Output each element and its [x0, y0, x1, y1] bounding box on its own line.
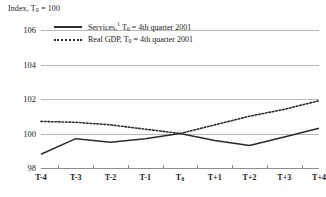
x-tick-label: T+3	[277, 173, 291, 182]
x-tick-label: T-3	[70, 173, 81, 182]
series-line	[41, 128, 319, 154]
x-tick-mark	[302, 165, 303, 169]
y-axis-title: Index, T0 = 100	[8, 4, 60, 13]
y-axis-labels: 98100102104106	[0, 30, 36, 168]
y-axis-title-subscript: 0	[36, 7, 39, 13]
legend-label: Real GDP, T0 = 4th quarter 2001	[88, 35, 193, 44]
x-tick-mark	[232, 165, 233, 169]
x-tick-label: T-4	[35, 173, 46, 182]
x-tick-mark	[128, 165, 129, 169]
legend-item: Services,1 T0 = 4th quarter 2001	[54, 20, 269, 33]
x-tick-label: T0	[176, 173, 184, 182]
x-tick-mark	[267, 165, 268, 169]
y-tick-label: 98	[28, 163, 37, 173]
y-axis-title-main: Index, T	[8, 4, 36, 13]
legend-label: Services,1 T0 = 4th quarter 2001	[88, 21, 191, 32]
series-layer	[41, 30, 319, 168]
plot-area	[41, 30, 319, 168]
x-tick-mark	[93, 165, 94, 169]
y-axis-title-tail: = 100	[39, 4, 60, 13]
x-tick-label: T-1	[140, 173, 151, 182]
x-axis-line	[41, 168, 319, 169]
chart-legend: Services,1 T0 = 4th quarter 2001Real GDP…	[54, 20, 269, 46]
x-tick-label: T+1	[208, 173, 222, 182]
legend-item: Real GDP, T0 = 4th quarter 2001	[54, 33, 269, 46]
x-tick-mark	[197, 165, 198, 169]
legend-dotted-line-icon	[54, 39, 82, 41]
x-tick-mark	[58, 165, 59, 169]
y-tick-label: 106	[23, 25, 36, 35]
y-tick-label: 102	[23, 94, 36, 104]
y-tick-label: 104	[23, 60, 36, 70]
legend-solid-line-icon	[54, 26, 82, 28]
x-tick-label: T+2	[243, 173, 257, 182]
series-line	[41, 101, 319, 134]
x-tick-label: T-2	[105, 173, 116, 182]
y-tick-label: 100	[23, 129, 36, 139]
x-tick-mark	[163, 165, 164, 169]
x-tick-label: T+4	[312, 173, 326, 182]
